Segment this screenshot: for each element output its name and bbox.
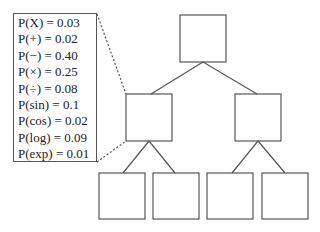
node-left-right [153, 173, 199, 219]
edge-left-lr [149, 141, 175, 173]
node-right-left [207, 173, 253, 219]
legend-row-x: P(X) = 0.03 [18, 15, 96, 31]
node-root [180, 15, 226, 62]
node-right-right [262, 173, 308, 219]
legend-row-divide: P(÷) = 0.08 [18, 81, 96, 97]
edge-right-rr [258, 141, 285, 173]
edge-root-left [151, 62, 203, 94]
legend-row-log: P(log) = 0.09 [18, 130, 96, 146]
dashed-connector-bottom [97, 141, 126, 162]
legend-row-cos: P(cos) = 0.02 [18, 113, 96, 129]
legend-row-plus: P(+) = 0.02 [18, 31, 96, 47]
node-left-left [99, 173, 145, 219]
legend-row-times: P(×) = 0.25 [18, 64, 96, 80]
dashed-connector-top [97, 14, 126, 94]
probability-legend: P(X) = 0.03 P(+) = 0.02 P(−) = 0.40 P(×)… [13, 13, 97, 162]
node-right [235, 94, 281, 141]
edge-root-right [203, 62, 257, 94]
node-left [126, 94, 172, 141]
edge-right-rl [232, 141, 258, 173]
edge-left-ll [123, 141, 149, 173]
legend-row-sin: P(sin) = 0.1 [18, 97, 96, 113]
legend-row-minus: P(−) = 0.40 [18, 48, 96, 64]
legend-row-exp: P(exp) = 0.01 [18, 146, 96, 162]
